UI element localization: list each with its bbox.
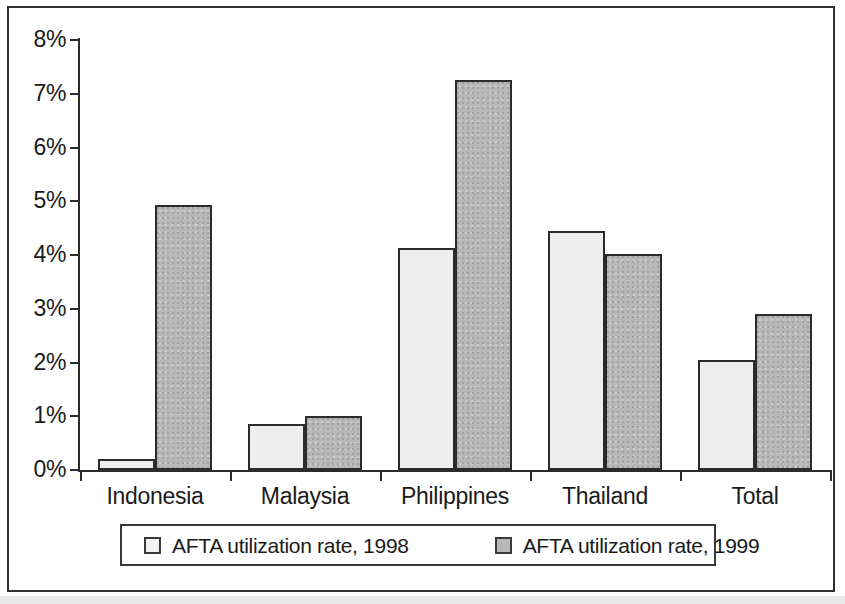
chart-figure: 8%7%6%5%4%3%2%1%0% IndonesiaMalaysiaPhil…: [0, 0, 845, 604]
legend-label-1999: AFTA utilization rate, 1999: [523, 535, 760, 556]
scan-edge-band: [0, 596, 845, 604]
legend-entry-1999: AFTA utilization rate, 1999: [495, 526, 760, 564]
bar-thailand-1999: [605, 254, 662, 470]
x-axis-category-label: Total: [680, 483, 830, 509]
y-axis-tick: [70, 362, 79, 364]
y-axis-tick: [70, 147, 79, 149]
bar-indonesia-1998: [98, 459, 155, 470]
bar-total-1999: [755, 314, 812, 470]
bar-indonesia-1999: [155, 205, 212, 470]
y-axis-tick-label: 6%: [4, 136, 66, 159]
bar-philippines-1998: [398, 248, 455, 470]
y-axis-tick-label: 8%: [4, 28, 66, 51]
bar-thailand-1998: [548, 231, 605, 470]
legend-label-1998: AFTA utilization rate, 1998: [172, 535, 409, 556]
x-axis-line: [78, 470, 832, 472]
y-axis-tick: [70, 254, 79, 256]
y-axis-tick: [70, 415, 79, 417]
y-axis-tick: [70, 308, 79, 310]
x-axis-tick: [530, 471, 532, 481]
x-axis-tick: [830, 471, 832, 481]
y-axis-tick: [70, 39, 79, 41]
legend-entry-1998: AFTA utilization rate, 1998: [144, 526, 409, 564]
y-axis-tick-label: 2%: [4, 351, 66, 374]
x-axis-category-label: Thailand: [530, 483, 680, 509]
x-axis-tick: [80, 471, 82, 481]
y-axis-tick-label: 5%: [4, 189, 66, 212]
bar-philippines-1999: [455, 80, 512, 470]
y-axis-tick: [70, 469, 79, 471]
x-axis-tick: [380, 471, 382, 481]
x-axis-category-label: Philippines: [380, 483, 530, 509]
y-axis-tick-label: 4%: [4, 243, 66, 266]
legend-swatch-1998-icon: [144, 537, 161, 554]
y-axis-tick-label: 1%: [4, 404, 66, 427]
x-axis-category-label: Indonesia: [80, 483, 230, 509]
y-axis-tick-label: 0%: [4, 458, 66, 481]
x-axis-tick: [680, 471, 682, 481]
y-axis-tick: [70, 93, 79, 95]
y-axis-tick: [70, 200, 79, 202]
y-axis-tick-label: 7%: [4, 82, 66, 105]
bar-malaysia-1998: [248, 424, 305, 470]
bar-total-1998: [698, 360, 755, 470]
legend-swatch-1999-icon: [495, 537, 512, 554]
y-axis-tick-label: 3%: [4, 297, 66, 320]
bar-malaysia-1999: [305, 416, 362, 470]
chart-legend: AFTA utilization rate, 1998 AFTA utiliza…: [120, 524, 716, 566]
x-axis-tick: [230, 471, 232, 481]
x-axis-category-label: Malaysia: [230, 483, 380, 509]
